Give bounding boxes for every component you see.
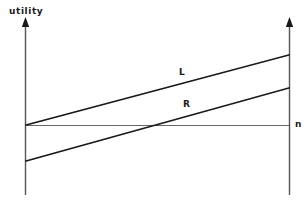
chart-canvas bbox=[0, 0, 306, 211]
right-axis-arrow-icon bbox=[286, 17, 293, 27]
series-line-R bbox=[26, 88, 289, 161]
utility-line-chart: utility n L R bbox=[0, 0, 306, 211]
series-line-L bbox=[26, 55, 289, 125]
y-axis-arrow-icon bbox=[22, 17, 29, 27]
x-axis-label: n bbox=[295, 120, 301, 129]
series-label-L: L bbox=[179, 68, 185, 77]
series-label-R: R bbox=[183, 100, 190, 109]
y-axis-label: utility bbox=[9, 7, 43, 16]
